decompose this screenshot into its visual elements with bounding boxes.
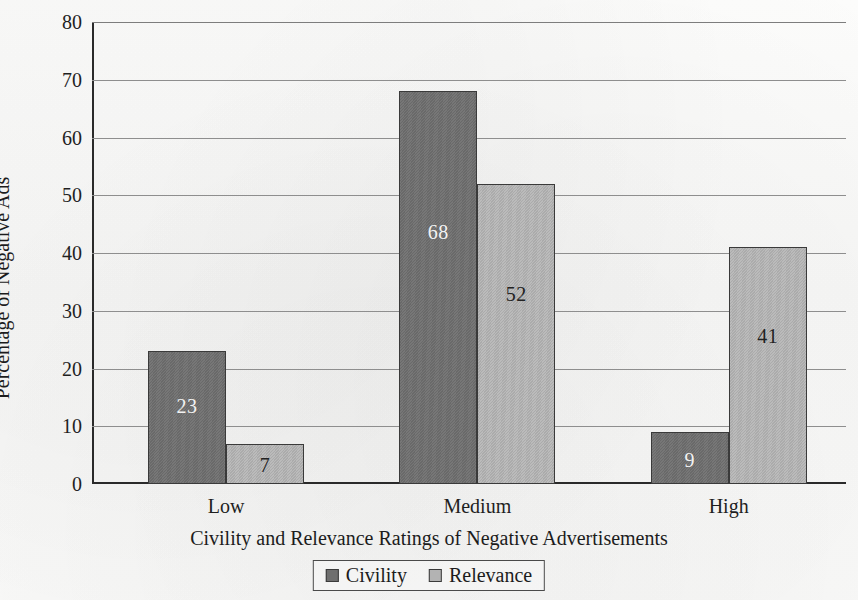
legend-label: Relevance [449,565,532,585]
bar-value-label: 23 [149,396,225,416]
bar-value-label: 68 [400,222,476,242]
y-tick-label: 30 [62,301,82,321]
category-label-medium: Medium [443,496,511,516]
y-tick-label: 80 [62,12,82,32]
x-axis-title: Civility and Relevance Ratings of Negati… [0,528,858,548]
legend-swatch-civility-icon [326,569,339,582]
bar-high-civility: 9 [651,432,729,484]
bar-high-relevance: 41 [729,247,807,484]
bar-chart-figure: 01020304050607080 2376852941 LowMediumHi… [0,0,858,600]
y-tick-label: 40 [62,243,82,263]
gridline-80 [92,22,846,23]
y-tick-label: 0 [72,474,82,494]
bar-medium-relevance: 52 [477,184,555,484]
bar-medium-civility: 68 [399,91,477,484]
gridline-70 [92,80,846,81]
y-tick-label: 70 [62,70,82,90]
y-tick-label: 10 [62,416,82,436]
legend-entry-relevance[interactable]: Relevance [429,565,532,585]
category-label-low: Low [208,496,245,516]
legend-swatch-relevance-icon [429,569,442,582]
legend-label: Civility [346,565,407,585]
bar-value-label: 9 [652,450,728,470]
category-label-high: High [709,496,749,516]
y-axis-title: Percentage of Negative Ads [0,138,12,438]
bar-low-relevance: 7 [226,444,304,484]
y-tick-label: 20 [62,359,82,379]
y-tick-label: 50 [62,185,82,205]
plot-area: 01020304050607080 2376852941 [92,22,846,484]
legend-entry-civility[interactable]: Civility [326,565,407,585]
y-tick-label: 60 [62,128,82,148]
chart-legend: CivilityRelevance [313,560,545,591]
bar-value-label: 41 [730,326,806,346]
bar-low-civility: 23 [148,351,226,484]
bar-value-label: 52 [478,284,554,304]
bar-value-label: 7 [227,455,303,475]
